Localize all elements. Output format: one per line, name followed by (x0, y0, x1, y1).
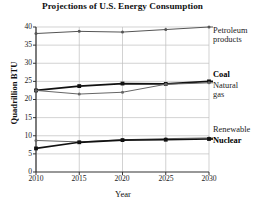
data-point-marker (121, 91, 124, 94)
x-axis-title: Year (36, 189, 210, 199)
x-tick-label-2020: 2020 (105, 174, 139, 183)
x-tick-label-2015: 2015 (62, 174, 96, 183)
data-point-marker (121, 31, 124, 34)
data-point-marker (35, 139, 38, 142)
chart-title: Projections of U.S. Energy Consumption (0, 1, 245, 11)
data-point-marker (164, 28, 167, 31)
plot-area (36, 27, 209, 172)
data-point-marker (34, 147, 38, 151)
data-point-marker (35, 32, 38, 35)
y-tick-label-10: 10 (10, 132, 32, 140)
y-tick-label-15: 15 (10, 114, 32, 122)
data-point-marker (121, 82, 125, 86)
y-tick-label-5: 5 (10, 150, 32, 158)
y-tick-label-25: 25 (10, 77, 32, 85)
y-tick-label-20: 20 (10, 95, 32, 103)
data-point-marker (77, 140, 81, 144)
data-point-marker (35, 89, 38, 92)
x-tick-label-2010: 2010 (19, 174, 53, 183)
data-point-marker (78, 30, 81, 33)
plot-svg (36, 27, 219, 172)
x-tick-label-2030: 2030 (192, 174, 226, 183)
data-point-marker (121, 138, 125, 142)
data-point-marker (78, 93, 81, 96)
data-point-marker (164, 83, 167, 86)
data-point-marker (164, 138, 168, 142)
data-point-marker (77, 84, 81, 88)
y-tick-label-35: 35 (10, 41, 32, 49)
y-tick-label-40: 40 (10, 23, 32, 31)
energy-consumption-line-chart: Projections of U.S. Energy Consumption Q… (0, 0, 273, 204)
y-tick-label-30: 30 (10, 59, 32, 67)
x-tick-label-2025: 2025 (149, 174, 183, 183)
